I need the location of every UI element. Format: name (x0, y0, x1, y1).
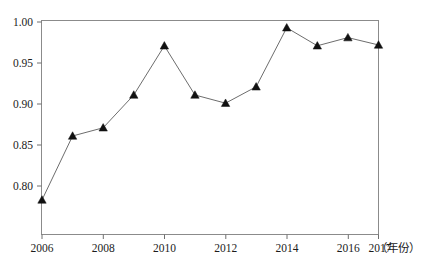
data-point-marker (283, 24, 291, 31)
series-markers (38, 24, 383, 204)
x-tick-label: 2006 (31, 242, 54, 254)
y-axis-ticks (37, 22, 42, 186)
data-point-marker (252, 83, 260, 90)
y-tick-label: 1.00 (13, 16, 33, 28)
x-tick-label: 2010 (153, 242, 176, 254)
data-point-marker (344, 33, 352, 40)
data-point-marker (38, 196, 46, 203)
x-tick-label: 2012 (214, 242, 237, 254)
chart-canvas: 1.00 0.95 0.90 0.85 0.80 2006 2008 2010 … (0, 0, 433, 266)
data-point-marker (130, 91, 138, 98)
y-tick-label: 0.90 (13, 98, 33, 110)
line-chart: 1.00 0.95 0.90 0.85 0.80 2006 2008 2010 … (0, 0, 433, 266)
y-axis-labels: 1.00 0.95 0.90 0.85 0.80 (13, 16, 33, 192)
x-axis-ticks (42, 235, 379, 240)
series-line (42, 28, 379, 200)
y-tick-label: 0.85 (13, 139, 33, 151)
x-axis-unit-label: （年份） (376, 241, 420, 254)
x-axis-labels: 2006 2008 2010 2012 2014 2016 2017 (31, 242, 392, 254)
x-tick-label: 2008 (92, 242, 115, 254)
x-tick-label: 2014 (276, 242, 299, 254)
plot-frame (42, 21, 379, 235)
y-tick-label: 0.80 (13, 180, 33, 192)
data-point-marker (160, 42, 168, 49)
x-tick-label: 2016 (337, 242, 360, 254)
data-point-marker (191, 91, 199, 98)
y-tick-label: 0.95 (13, 57, 33, 69)
